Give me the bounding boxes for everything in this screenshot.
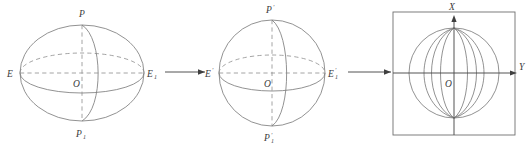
sphere-label-south-pole: P [263, 133, 270, 143]
sphere-label-center: O [264, 79, 271, 89]
arrow-sphere-to-projection [348, 69, 391, 74]
sphere-label-equator-right-prime: ′ [335, 67, 337, 73]
sphere-label-north-pole-prime: ′ [273, 4, 275, 10]
arrow-1-head [198, 69, 205, 74]
figure-canvas: P P 1 E E 1 O P ′ P 1 ′ E ′ E 1 ′ [0, 0, 528, 146]
ellipsoid-label-equator-right: E [146, 69, 153, 79]
panel-oblate-ellipsoid: P P 1 E E 1 O [6, 9, 157, 140]
figure-svg: P P 1 E E 1 O P ′ P 1 ′ E ′ E 1 ′ [0, 0, 528, 146]
panel-plane-projection: X Y O [393, 2, 526, 135]
ellipsoid-label-south-pole: P [75, 129, 82, 139]
ellipsoid-label-north-pole: P [78, 9, 85, 19]
projection-label-y-axis: Y [519, 62, 526, 72]
ellipsoid-label-center: O [73, 79, 80, 89]
ellipsoid-equator-front [20, 73, 144, 93]
projection-label-origin: O [445, 79, 452, 89]
sphere-label-equator-right: E [327, 69, 334, 79]
sphere-label-equator-left-prime: ′ [212, 67, 214, 73]
arrow-ellipsoid-to-sphere [165, 69, 205, 74]
ellipsoid-label-equator-right-subscript: 1 [154, 74, 157, 80]
projection-label-x-axis: X [448, 2, 456, 12]
sphere-label-south-pole-subscript: 1 [271, 138, 274, 144]
arrow-2-head [384, 69, 391, 74]
x-axis-arrowhead [451, 15, 456, 22]
panel-sphere: P ′ P 1 ′ E ′ E 1 ′ O [204, 4, 338, 144]
ellipsoid-label-south-pole-subscript: 1 [83, 134, 86, 140]
y-axis-arrowhead [510, 70, 517, 75]
sphere-label-equator-left: E [204, 69, 211, 79]
sphere-label-equator-right-subscript: 1 [335, 74, 338, 80]
sphere-label-north-pole: P [265, 5, 272, 15]
ellipsoid-label-equator-left: E [6, 69, 13, 79]
